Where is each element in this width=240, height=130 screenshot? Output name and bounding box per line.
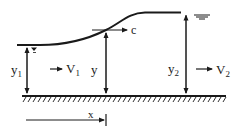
label-v1: V1 — [66, 61, 80, 78]
label-c: c — [131, 23, 136, 37]
label-v2: V2 — [216, 62, 230, 79]
surge-diagram: y1 V1 y c y2 V2 x — [0, 0, 240, 130]
label-y2: y2 — [168, 61, 179, 78]
free-surface-symbol-left — [31, 48, 37, 53]
free-surface-symbol-right — [194, 15, 210, 19]
water-surface-profile — [17, 13, 181, 46]
label-y1: y1 — [11, 62, 22, 79]
label-x: x — [88, 108, 94, 120]
bed-hatching — [23, 97, 226, 102]
label-y: y — [91, 62, 98, 77]
